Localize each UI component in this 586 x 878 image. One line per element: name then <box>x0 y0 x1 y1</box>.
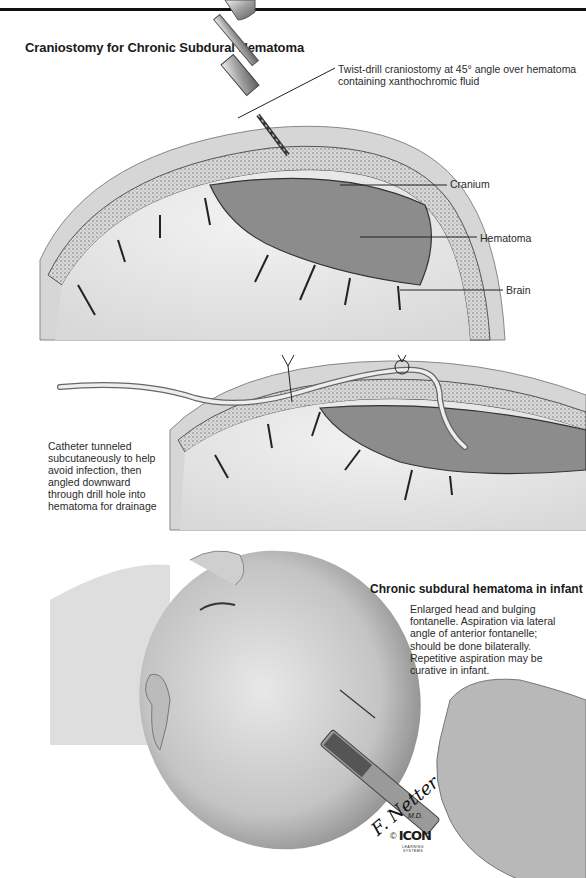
infant-section-title: Chronic subdural hematoma in infant <box>370 582 583 596</box>
illustration-canvas <box>0 0 586 878</box>
catheter-note: Catheter tunneled subcutaneously to help… <box>48 440 168 512</box>
publisher-name: ICON <box>399 828 431 843</box>
label-twist-drill: Twist-drill craniostomy at 45° angle ove… <box>338 63 578 87</box>
publisher-subtitle: LEARNING SYSTEMS <box>398 845 428 853</box>
artist-signature-suffix: M.D. <box>408 812 423 819</box>
label-hematoma: Hematoma <box>480 232 531 244</box>
label-brain: Brain <box>506 284 531 296</box>
infant-aspiration-illustration <box>50 519 586 878</box>
copyright-icon: © <box>390 831 397 841</box>
infant-note: Enlarged head and bulging fontanelle. As… <box>410 603 560 676</box>
publisher-logo: © ICON <box>390 828 431 843</box>
craniostomy-cross-section <box>40 0 505 340</box>
label-cranium: Cranium <box>450 178 490 190</box>
